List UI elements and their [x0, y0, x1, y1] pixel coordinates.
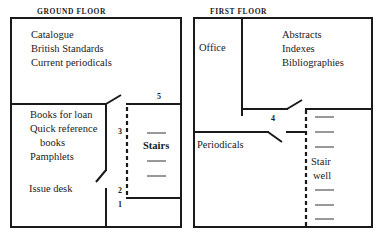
- periodicals-label: Periodicals: [197, 138, 244, 152]
- marker-1: 1: [118, 200, 122, 209]
- ground-floor-title: GROUND FLOOR: [37, 7, 106, 16]
- library-floor-plans: GROUND FLOOR Catalogue British Standards…: [0, 0, 381, 238]
- issue-desk-label: Issue desk: [29, 182, 72, 196]
- lending-room-label: Books for loan Quick reference books Pam…: [30, 108, 97, 164]
- room-line: Quick reference: [30, 122, 97, 136]
- room-line: Bibliographies: [282, 56, 344, 70]
- first-floor-title: FIRST FLOOR: [210, 7, 267, 16]
- room-line: Catalogue: [31, 28, 112, 42]
- room-line: Books for loan: [30, 108, 97, 122]
- room-line: Pamphlets: [30, 150, 97, 164]
- stairwell-label: Stair well: [311, 155, 331, 183]
- room-line: books: [30, 136, 97, 150]
- room-line: British Standards: [31, 42, 112, 56]
- room-line: Indexes: [282, 42, 344, 56]
- marker-2: 2: [118, 186, 122, 195]
- marker-4: 4: [271, 114, 275, 123]
- room-line: Stair: [311, 155, 331, 169]
- office-label: Office: [199, 41, 226, 55]
- room-line: Current periodicals: [31, 56, 112, 70]
- room-line: Abstracts: [282, 28, 344, 42]
- upper-room-label: Catalogue British Standards Current peri…: [31, 28, 112, 70]
- reference-room-label: Abstracts Indexes Bibliographies: [282, 28, 344, 70]
- marker-5: 5: [157, 92, 161, 101]
- room-line: well: [311, 169, 331, 183]
- marker-3: 3: [118, 127, 122, 136]
- stairs-label: Stairs: [143, 139, 169, 153]
